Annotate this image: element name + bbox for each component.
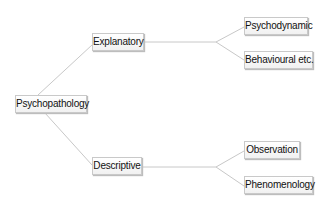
node-psychodynamic: Psychodynamic (244, 17, 308, 35)
node-observation: Observation (244, 141, 300, 159)
node-psychopathology: Psychopathology (15, 95, 87, 113)
node-behavioural: Behavioural etc. (244, 51, 313, 69)
node-phenomenology: Phenomenology (244, 176, 313, 194)
node-explanatory: Explanatory (92, 33, 144, 51)
node-descriptive: Descriptive (92, 157, 142, 175)
